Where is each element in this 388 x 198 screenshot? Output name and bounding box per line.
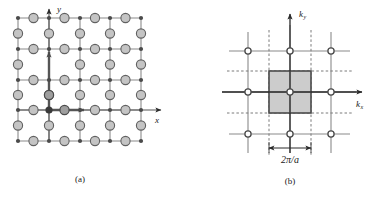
figure-root: y x [0,0,388,198]
ky-axis-label-subscript: y [302,14,306,20]
lattice-edge-atom [29,136,38,145]
lattice-edge-atom [136,90,145,99]
reciprocal-lattice-point-origin [287,89,293,95]
lattice-edge-atom [13,60,22,69]
lattice-corner-atom [139,47,143,51]
lattice-edge-atom [13,90,22,99]
lattice-corner-atom [47,16,51,20]
lattice-corner-atom [47,47,51,51]
lattice-edge-atom [105,60,114,69]
lattice-edge-atom [29,105,38,114]
panel-a-origin-atom [45,106,52,113]
lattice-corner-atom [139,16,143,20]
lattice-corner-atom [16,108,20,112]
panel-b-caption: (b) [285,176,296,186]
lattice-edge-atom [13,29,22,38]
lattice-edge-atom-on-a1 [60,105,69,114]
lattice-edge-atom [90,13,99,22]
lattice-corner-atom [108,47,112,51]
reciprocal-lattice-point [245,48,251,54]
lattice-corner-atom [139,139,143,143]
lattice-edge-atom [90,105,99,114]
lattice-edge-atom [121,105,130,114]
reciprocal-lattice-point [328,48,334,54]
reciprocal-lattice-point [287,48,293,54]
lattice-edge-atom [105,121,114,130]
lattice-edge-atom [121,44,130,53]
lattice-corner-atom [108,139,112,143]
lattice-corner-atom [16,47,20,51]
lattice-corner-atom [78,139,82,143]
lattice-edge-atom [29,13,38,22]
lattice-edge-atom [121,75,130,84]
lattice-edge-atom [90,44,99,53]
lattice-corner-atom [78,16,82,20]
lattice-corner-atom [139,108,143,112]
lattice-edge-atom [29,44,38,53]
lattice-corner-atom [78,78,82,82]
lattice-edge-atom [60,136,69,145]
lattice-corner-atom [108,108,112,112]
panel-b-dimension-label: 2π/a [281,154,299,165]
lattice-edge-atom [44,29,53,38]
lattice-corner-atom [108,16,112,20]
lattice-corner-atom [16,139,20,143]
lattice-corner-atom [139,78,143,82]
lattice-edge-atom [75,29,84,38]
lattice-corner-atom [47,78,51,82]
lattice-edge-atom [60,75,69,84]
lattice-edge-atom [13,121,22,130]
lattice-corner-atom [108,78,112,82]
lattice-corner-atom [47,139,51,143]
lattice-edge-atom [75,60,84,69]
lattice-edge-atom [136,60,145,69]
lattice-edge-atom [90,75,99,84]
lattice-edge-atom [60,44,69,53]
panel-a-y-axis-label: y [56,4,61,14]
physics-figure-svg: y x [0,0,388,198]
lattice-edge-atom [44,121,53,130]
reciprocal-lattice-point [245,131,251,137]
reciprocal-lattice-point [287,131,293,137]
lattice-edge-atom [75,121,84,130]
panel-a-x-axis-label: x [154,115,159,125]
lattice-edge-atom [29,75,38,84]
lattice-corner-atom [78,108,82,112]
lattice-edge-atom [136,29,145,38]
lattice-edge-atom [75,90,84,99]
lattice-edge-atom [121,13,130,22]
lattice-corner-atom [16,16,20,20]
lattice-edge-atom [60,13,69,22]
lattice-edge-atom [105,90,114,99]
lattice-edge-atom [136,121,145,130]
reciprocal-lattice-point [328,131,334,137]
reciprocal-lattice-point [245,89,251,95]
lattice-corner-atom [16,78,20,82]
reciprocal-lattice-point [328,89,334,95]
lattice-edge-atom [121,136,130,145]
lattice-edge-atom [90,136,99,145]
lattice-edge-atom-on-a2 [44,90,53,99]
figure-background [0,0,388,198]
lattice-corner-atom [78,47,82,51]
lattice-edge-atom [105,29,114,38]
panel-a-caption: (a) [75,174,85,184]
kx-axis-label-subscript: x [359,104,363,110]
